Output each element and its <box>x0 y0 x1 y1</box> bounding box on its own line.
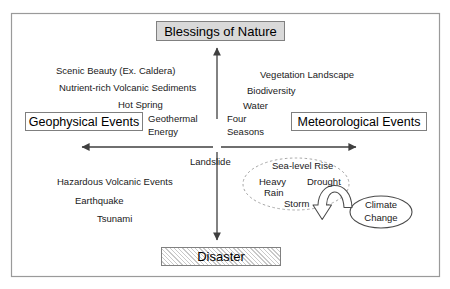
ll-item-3: Tsunami <box>97 214 132 224</box>
diagram-frame <box>12 14 440 277</box>
climate-change-line-2: Change <box>351 213 411 224</box>
lr-item-sea-level-rise: Sea-level Rise <box>272 161 333 171</box>
ul-item-4: Geothermal <box>148 114 198 124</box>
ur-item-2: Biodiversity <box>247 86 296 96</box>
ll-item-2: Earthquake <box>75 196 124 206</box>
blessings-of-nature-box[interactable]: Blessings of Nature <box>156 21 285 41</box>
meteorological-events-label: Meteorological Events <box>298 115 421 129</box>
disaster-box[interactable]: Disaster <box>161 247 281 266</box>
geophysical-events-label: Geophysical Events <box>29 115 139 129</box>
ll-item-1: Hazardous Volcanic Events <box>57 177 173 187</box>
diagram-vector-layer <box>0 0 450 289</box>
blessings-of-nature-label: Blessings of Nature <box>164 24 277 39</box>
lr-item-heavy: Heavy <box>259 177 286 187</box>
disaster-label: Disaster <box>197 249 245 264</box>
lr-item-drought: Drought <box>307 177 341 187</box>
ul-item-1: Scenic Beauty (Ex. Caldera) <box>56 66 175 76</box>
geophysical-events-box[interactable]: Geophysical Events <box>25 112 143 131</box>
diagram-canvas: Blessings of Nature Disaster Geophysical… <box>0 0 450 289</box>
climate-change-line-1: Climate <box>351 200 411 211</box>
lr-item-storm: Storm <box>284 199 309 209</box>
ur-item-5: Seasons <box>227 127 264 137</box>
landslide-label: Landslide <box>190 157 231 167</box>
ul-item-2: Nutrient-rich Volcanic Sediments <box>59 83 196 93</box>
ul-item-3: Hot Spring <box>118 100 163 110</box>
ur-item-4: Four <box>227 114 247 124</box>
lr-item-rain: Rain <box>264 188 284 198</box>
ur-item-1: Vegetation Landscape <box>260 70 354 80</box>
ul-item-5: Energy <box>148 127 178 137</box>
ur-item-3: Water <box>243 101 268 111</box>
meteorological-events-box[interactable]: Meteorological Events <box>291 112 427 131</box>
